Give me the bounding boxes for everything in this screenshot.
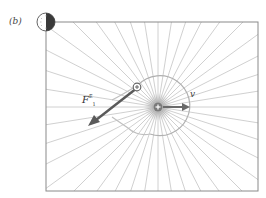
field-line — [0, 0, 154, 104]
clock-icon — [37, 13, 55, 31]
field-line — [0, 44, 153, 106]
field-line — [0, 111, 154, 198]
field-line — [0, 108, 153, 170]
field-lines — [0, 0, 266, 198]
force-label: FE1 — [82, 94, 96, 107]
field-line — [0, 109, 154, 198]
moving-charge — [154, 103, 163, 112]
field-line — [161, 111, 266, 198]
field-line — [159, 112, 221, 198]
field-line — [162, 0, 266, 103]
field-line — [0, 111, 155, 198]
field-line — [160, 111, 266, 198]
field-line — [34, 112, 156, 198]
field-diagram — [0, 0, 266, 198]
force-symbol: F — [82, 94, 89, 105]
field-line — [0, 0, 156, 103]
field-line — [160, 0, 266, 102]
field-line — [95, 112, 157, 198]
force-superscript: E — [89, 93, 93, 99]
test-charge — [133, 83, 141, 91]
field-line — [0, 110, 154, 198]
field-line — [0, 109, 153, 198]
field-line — [163, 0, 266, 105]
velocity-label: v — [190, 89, 195, 99]
force-subscript: 1 — [93, 101, 96, 107]
